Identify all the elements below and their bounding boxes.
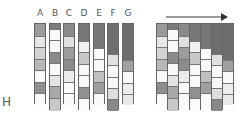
cell bbox=[64, 93, 74, 105]
cell bbox=[35, 47, 45, 59]
cell bbox=[201, 71, 211, 82]
cell bbox=[108, 65, 118, 77]
cell bbox=[157, 82, 167, 93]
cell bbox=[190, 75, 200, 87]
cell bbox=[190, 98, 200, 111]
cell bbox=[50, 40, 60, 52]
column-label-e: E bbox=[93, 9, 105, 18]
cell bbox=[190, 87, 200, 98]
cell bbox=[157, 47, 167, 59]
sorted-column-7 bbox=[222, 23, 234, 104]
cell bbox=[179, 47, 189, 59]
column-e bbox=[93, 23, 105, 104]
column-b bbox=[49, 23, 61, 110]
cell bbox=[50, 98, 60, 111]
cell bbox=[168, 86, 178, 98]
cell bbox=[79, 75, 89, 87]
cell bbox=[94, 59, 104, 71]
cell bbox=[179, 82, 189, 93]
cell bbox=[168, 63, 178, 75]
arrow-right-icon bbox=[166, 16, 222, 18]
cell bbox=[50, 75, 60, 86]
cell bbox=[223, 60, 233, 71]
cell bbox=[64, 82, 74, 93]
cell bbox=[179, 36, 189, 47]
cell bbox=[64, 36, 74, 47]
cell bbox=[35, 24, 45, 36]
cell bbox=[64, 47, 74, 59]
cell bbox=[168, 75, 178, 86]
cell bbox=[64, 59, 74, 70]
cell bbox=[94, 93, 104, 105]
column-label-a: A bbox=[34, 9, 46, 18]
cell bbox=[223, 24, 233, 60]
cell bbox=[123, 71, 133, 83]
cell bbox=[179, 59, 189, 70]
cell bbox=[201, 48, 211, 59]
cell bbox=[94, 48, 104, 59]
cell bbox=[168, 29, 178, 40]
column-label-d: D bbox=[78, 9, 90, 18]
cell bbox=[64, 24, 74, 36]
cell bbox=[168, 40, 178, 52]
cell bbox=[212, 65, 222, 77]
cell bbox=[157, 36, 167, 47]
cell bbox=[50, 29, 60, 40]
cell bbox=[190, 41, 200, 52]
cell bbox=[201, 59, 211, 71]
cell bbox=[79, 64, 89, 75]
column-d bbox=[78, 23, 90, 110]
cell bbox=[212, 88, 222, 99]
cell bbox=[223, 71, 233, 83]
cell bbox=[201, 82, 211, 93]
cell bbox=[35, 36, 45, 47]
cell bbox=[108, 54, 118, 65]
cell bbox=[190, 24, 200, 41]
cell bbox=[157, 93, 167, 105]
cell bbox=[35, 93, 45, 105]
cell bbox=[50, 86, 60, 98]
cell bbox=[108, 24, 118, 54]
cell bbox=[94, 71, 104, 82]
cell bbox=[190, 52, 200, 64]
cell bbox=[179, 24, 189, 36]
cell bbox=[79, 41, 89, 52]
cell bbox=[108, 77, 118, 88]
cell bbox=[201, 24, 211, 48]
cell bbox=[157, 70, 167, 82]
cell bbox=[157, 24, 167, 36]
cell bbox=[108, 99, 118, 111]
column-g bbox=[122, 23, 134, 104]
cell bbox=[64, 70, 74, 82]
row-label-h: H bbox=[2, 96, 11, 108]
cell bbox=[79, 87, 89, 98]
cell bbox=[179, 70, 189, 82]
cell bbox=[108, 88, 118, 99]
column-label-g: G bbox=[122, 9, 134, 18]
cell bbox=[35, 59, 45, 70]
cell bbox=[123, 60, 133, 71]
arrowhead-icon bbox=[221, 13, 228, 21]
cell bbox=[35, 82, 45, 93]
cell bbox=[123, 83, 133, 94]
column-label-f: F bbox=[107, 9, 119, 18]
column-label-b: B bbox=[49, 9, 61, 18]
cell bbox=[94, 24, 104, 48]
cell bbox=[223, 94, 233, 105]
cell bbox=[123, 94, 133, 105]
cell bbox=[79, 52, 89, 64]
cell bbox=[212, 77, 222, 88]
cell bbox=[79, 24, 89, 41]
cell bbox=[123, 24, 133, 60]
cell bbox=[50, 63, 60, 75]
cell bbox=[79, 98, 89, 111]
cell bbox=[190, 64, 200, 75]
cell bbox=[94, 82, 104, 93]
column-a bbox=[34, 23, 46, 104]
cell bbox=[179, 93, 189, 105]
cell bbox=[212, 99, 222, 111]
cell bbox=[168, 52, 178, 63]
cell bbox=[35, 70, 45, 82]
cell bbox=[212, 24, 222, 54]
cell bbox=[168, 98, 178, 111]
